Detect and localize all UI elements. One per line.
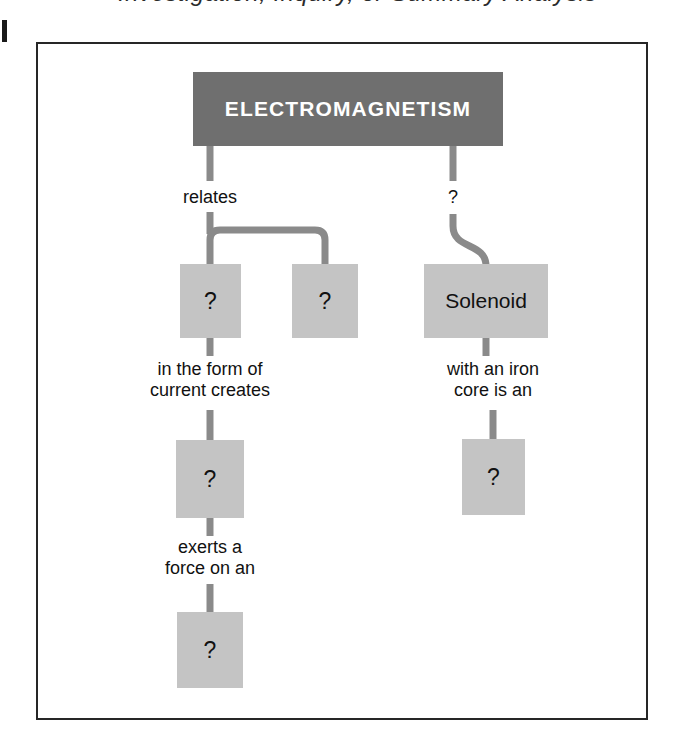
page-header-fragment: Investigation, Inquiry, or Summary Analy… [0,0,685,14]
node-question-3[interactable]: ? [176,440,244,518]
node-solenoid[interactable]: Solenoid [424,264,548,338]
diagram-frame: ELECTROMAGNETISM ? ? Solenoid ? ? ? rela… [36,42,648,720]
node-question-1[interactable]: ? [180,264,241,338]
edge-label-exerts-a-force-on-an: exerts a force on an [150,537,270,579]
edge-label-question: ? [433,187,473,208]
edge-label-in-the-form-of-current-creates: in the form of current creates [135,359,285,401]
node-label: ? [204,288,217,315]
node-label: ELECTROMAGNETISM [225,97,471,121]
connector-arch [210,230,325,264]
node-label: ? [204,466,217,493]
edge-label-relates: relates [160,187,260,208]
concept-map-canvas: ELECTROMAGNETISM ? ? Solenoid ? ? ? rela… [38,44,646,718]
node-question-5[interactable]: ? [177,612,243,688]
node-electromagnetism[interactable]: ELECTROMAGNETISM [193,72,503,146]
connector-s-curve [453,214,486,266]
node-question-2[interactable]: ? [292,264,358,338]
page-root: Investigation, Inquiry, or Summary Analy… [0,0,685,751]
node-label: ? [487,464,500,491]
margin-tick-mark [2,20,7,42]
node-label: ? [319,288,332,315]
edge-label-with-an-iron-core-is-an: with an iron core is an [423,359,563,401]
node-label: Solenoid [445,289,527,313]
header-text: Investigation, Inquiry, or Summary Analy… [118,0,597,7]
node-question-4[interactable]: ? [462,439,525,515]
node-label: ? [204,637,217,664]
